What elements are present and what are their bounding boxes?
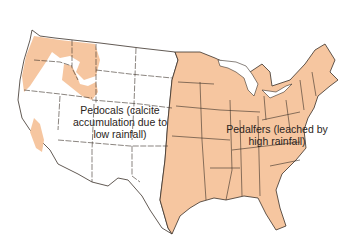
pedalfers-label-line1: Pedalfers (leached by bbox=[222, 123, 332, 135]
pedocals-label-line3: low rainfall) bbox=[55, 128, 185, 140]
pedocals-label: Pedocals (calcite accumulation due to lo… bbox=[55, 104, 185, 140]
pedocals-label-line1: Pedocals (calcite bbox=[55, 104, 185, 116]
pedalfers-label: Pedalfers (leached by high rainfall) bbox=[222, 123, 332, 147]
pedalfers-label-line2: high rainfall) bbox=[222, 135, 332, 147]
pedocals-label-line2: accumulation due to bbox=[55, 116, 185, 128]
